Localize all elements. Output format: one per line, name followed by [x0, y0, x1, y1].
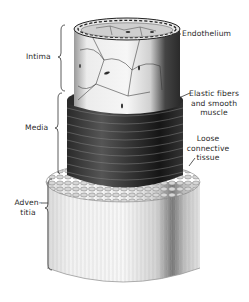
elastic-line-3: muscle — [188, 108, 240, 118]
elastic-line-2: and smooth — [188, 99, 240, 109]
adventitia-line-1: Adven- — [14, 198, 42, 208]
loose-line-3: tissue — [186, 153, 230, 163]
elastic-line-1: Elastic fibers — [188, 89, 240, 99]
media-bracket — [55, 93, 62, 174]
artery-diagram: Endothelium Intima Media Elastic fibers … — [0, 0, 249, 302]
adventitia-line-2: titia — [14, 208, 42, 218]
intima-label: Intima — [26, 52, 51, 62]
elastic-fibers-label: Elastic fibers and smooth muscle — [188, 89, 240, 118]
intima-layer — [74, 18, 180, 114]
loose-line-2: connective — [186, 144, 230, 154]
media-label: Media — [25, 123, 48, 133]
loose-line-1: Loose — [186, 134, 230, 144]
adventitia-label: Adven- titia — [14, 198, 42, 217]
intima-bracket — [58, 25, 65, 91]
loose-connective-label: Loose connective tissue — [186, 134, 230, 163]
endothelium-label: Endothelium — [182, 29, 231, 39]
